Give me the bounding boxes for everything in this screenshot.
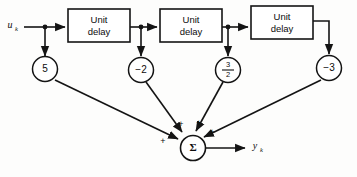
gain-2-value: −2 [135,64,147,75]
delay-block-3-line1: Unit [274,11,291,22]
wire-gain4-to-summer [204,80,321,137]
output-label-base: y [252,140,258,151]
gain-1: 5 [33,57,58,82]
gain-4: −3 [317,56,342,81]
wire-gain1-to-summer [55,80,178,139]
wire-gain2-to-summer [146,82,182,132]
input-label: u k [8,19,19,32]
sign-mark-4: + [209,127,214,137]
gain-3-numerator: 3 [226,60,230,69]
gain-1-value: 5 [42,63,48,74]
delay-block-2: Unit delay [160,9,222,42]
gain-4-value: −3 [323,62,335,73]
delay-block-1-line1: Unit [91,14,108,25]
output-label-subscript: k [260,146,263,153]
sign-mark-3: + [196,118,201,128]
output-label: y k [252,140,263,153]
delay-block-3: Unit delay [251,6,313,39]
summing-junction-symbol: Σ [189,141,196,153]
gain-3-denominator: 2 [226,70,230,79]
delay-block-3-line2: delay [271,23,294,34]
diagram-canvas: Unit delay Unit delay Unit delay 5 −2 [0,0,357,177]
input-label-base: u [8,19,13,30]
block-diagram: Unit delay Unit delay Unit delay 5 −2 [0,0,357,177]
delay-block-2-line1: Unit [183,14,200,25]
input-label-subscript: k [15,25,18,32]
sign-mark-1: + [160,136,165,146]
wire-delay3-to-gain4 [313,21,329,54]
summing-junction: Σ [181,136,206,161]
gain-3: 3 2 [216,58,241,83]
gain-2: −2 [129,58,154,83]
sign-mark-2: + [178,119,183,129]
delay-block-1: Unit delay [68,9,130,42]
delay-block-2-line2: delay [180,26,203,37]
delay-block-1-line2: delay [88,26,111,37]
gain-output-wires [55,80,321,139]
